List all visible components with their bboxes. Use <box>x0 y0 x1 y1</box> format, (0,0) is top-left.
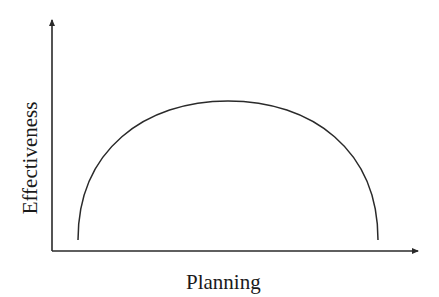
effectiveness-curve <box>78 101 378 240</box>
chart-canvas <box>0 0 439 297</box>
x-axis-label: Planning <box>186 270 261 295</box>
y-axis-label: Effectiveness <box>18 102 43 215</box>
